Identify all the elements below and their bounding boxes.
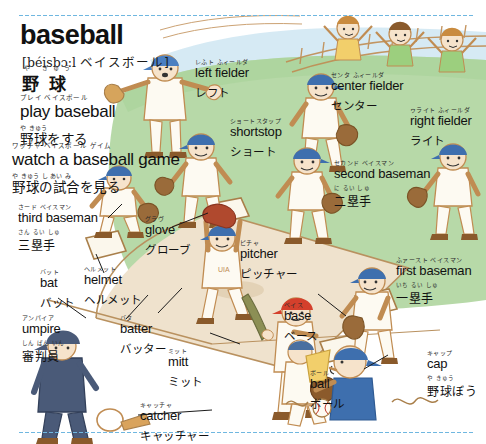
label-third-baseman: さード ベイスマン third baseman さん るい しゅ 三塁手 — [18, 202, 98, 253]
page-title: baseball — [20, 20, 123, 51]
label-english: catcher — [140, 409, 210, 423]
label-batter: バタ batter バッター — [120, 313, 166, 356]
label-english: pitcher — [240, 247, 298, 261]
label-katakana: ベース — [284, 327, 318, 343]
label-english: umpire — [22, 322, 65, 336]
label-english: center fielder — [331, 79, 403, 93]
label-kanji-furigana: や きゅう — [427, 374, 477, 382]
label-kanji: 野球ぼう — [427, 382, 477, 399]
label-english: base — [284, 309, 318, 323]
label-english: batter — [120, 322, 166, 336]
label-kanji: 三塁手 — [18, 236, 98, 253]
label-english: shortstop — [230, 125, 282, 139]
label-english: cap — [427, 357, 477, 371]
label-english: glove — [145, 223, 190, 237]
label-second-baseman: セカンド ベイスマン second baseman に るい しゅ 二塁手 — [334, 158, 430, 209]
label-katakana: ミット — [168, 373, 203, 389]
label-center-fielder: センタ ふィールダ center fielder センター — [331, 70, 403, 113]
label-english: bat — [40, 276, 75, 290]
label-ball: ボール ball ボール — [310, 368, 345, 411]
svg-text:UIA: UIA — [218, 266, 230, 273]
label-katakana: ヘルメット — [84, 291, 142, 307]
label-kanji: 一塁手 — [396, 289, 471, 306]
label-katakana: ピッチャー — [240, 265, 298, 281]
kana-pronunciation: ベイスボール] — [80, 55, 170, 70]
label-katakana: レフト — [195, 84, 249, 100]
label-kanji-furigana: いち るい しゅ — [396, 281, 471, 289]
label-katakana: ボール — [310, 395, 345, 411]
label-kanji-furigana: しん ぱん いん — [22, 339, 65, 347]
label-katakana: センター — [331, 97, 403, 113]
label-pitcher: ピチャ pitcher ピッチャー — [240, 238, 298, 281]
label-shortstop: ショートスタップ shortstop ショート — [230, 116, 282, 159]
label-mitt: ミット mitt ミット — [168, 346, 203, 389]
label-english: helmet — [84, 273, 142, 287]
phrase-english: watch a baseball game — [12, 151, 180, 169]
phrase-play-baseball: プレイ ベイスボール play baseball や きゅう 野球をする — [20, 92, 115, 147]
label-katakana: バット — [40, 294, 75, 310]
label-katakana: グローブ — [145, 241, 190, 257]
label-bat: バット bat バット — [40, 267, 75, 310]
label-english: right fielder — [410, 114, 472, 128]
label-english: second baseman — [334, 167, 430, 181]
label-kanji-furigana: に るい しゅ — [334, 184, 430, 192]
label-katakana: バッター — [120, 340, 166, 356]
label-english: third baseman — [18, 211, 98, 225]
label-katakana: ライト — [410, 132, 472, 148]
bottom-divider — [18, 431, 474, 434]
phrase-watch-a-baseball-game: ワッチャ ベイスボール ゲイム watch a baseball game や … — [12, 140, 180, 195]
label-right-fielder: ゥライト ふィールダ right fielder ライト — [410, 105, 472, 148]
label-glove: グラヴ glove グローブ — [145, 214, 190, 257]
phrase-furigana: プレイ ベイスボール — [20, 92, 115, 102]
label-english: left fielder — [195, 66, 249, 80]
label-first-baseman: ふァースト ベイスマン first baseman いち るい しゅ 一塁手 — [396, 255, 471, 306]
label-kanji-furigana: さん るい しゅ — [18, 228, 98, 236]
label-kanji: 審判員 — [22, 347, 65, 364]
dictionary-page: UIA — [0, 0, 486, 444]
label-helmet: ヘルメット helmet ヘルメット — [84, 264, 142, 307]
phrase-english: play baseball — [20, 103, 115, 121]
label-katakana: ショート — [230, 143, 282, 159]
label-english: first baseman — [396, 264, 471, 278]
label-katakana: キャッチャー — [140, 427, 210, 443]
phrase-japanese: 野球の試合を見る — [12, 180, 180, 195]
label-kanji: 二塁手 — [334, 192, 430, 209]
label-umpire: アンパイア umpire しん ぱん いん 審判員 — [22, 313, 65, 364]
label-catcher: キャッチャ catcher キャッチャー — [140, 400, 210, 443]
label-english: mitt — [168, 355, 203, 369]
label-english: ball — [310, 377, 345, 391]
label-base: ベイス base ベース — [284, 300, 318, 343]
phrase-furigana: ワッチャ ベイスボール ゲイム — [12, 140, 180, 150]
top-divider — [18, 14, 474, 17]
label-cap: キャップ cap や きゅう 野球ぼう — [427, 348, 477, 399]
label-left-fielder: レふト ふィールダ left fielder レフト — [195, 57, 249, 100]
